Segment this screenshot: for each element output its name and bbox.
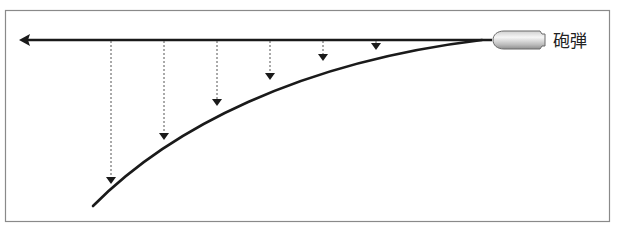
trajectory-diagram: 砲弾 [0, 0, 617, 231]
bullet-icon [493, 31, 545, 49]
bullet-label: 砲弾 [553, 31, 587, 51]
